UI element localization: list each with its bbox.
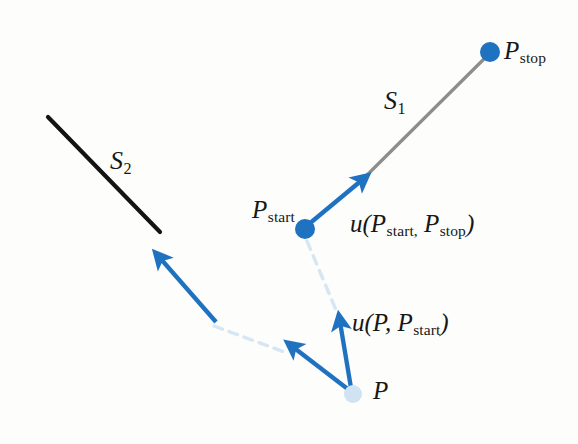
vector-diagram: Pstop S1 S2 Pstart u(Pstart, Pstop) u(P,… — [0, 0, 578, 444]
label-p-stop-base: P — [504, 37, 519, 64]
label-s1-sub: 1 — [397, 100, 406, 117]
arrow-u-p-toward-s2 — [293, 347, 349, 390]
point-p-stop — [480, 42, 500, 62]
label-u1-arg2-base: P — [424, 210, 439, 237]
label-u2-fn: u — [352, 309, 365, 336]
label-p-base: P — [373, 377, 388, 404]
dashed-guide-s2-extension — [214, 326, 287, 353]
segment-s1 — [360, 55, 488, 182]
label-p-stop-sub: stop — [519, 49, 546, 66]
label-s2-sub: 2 — [123, 160, 132, 177]
label-s1: S1 — [384, 88, 406, 117]
label-u-pstart-pstop: u(Pstart, Pstop) — [350, 211, 474, 239]
label-u2-arg2-sub: start — [413, 321, 441, 338]
label-u1-sep: , — [414, 222, 418, 239]
label-u1-arg1-sub: start — [386, 222, 414, 239]
segment-s2 — [48, 117, 160, 232]
label-p-start: Pstart — [252, 197, 295, 225]
label-u1-fn: u — [350, 210, 363, 237]
label-u2-arg2-base: P — [397, 309, 412, 336]
label-u-p-pstart: u(P, Pstart) — [352, 310, 449, 338]
point-p — [344, 385, 362, 403]
label-u1-close: ) — [466, 210, 474, 237]
label-p: P — [373, 378, 388, 403]
label-s2-base: S — [110, 146, 123, 175]
label-p-start-base: P — [252, 196, 267, 223]
label-u1-arg1-base: P — [371, 210, 386, 237]
label-u2-arg1-base: P — [373, 309, 385, 336]
arrow-u-p-pstart — [340, 322, 351, 388]
label-p-start-sub: start — [267, 208, 295, 225]
label-s2: S2 — [110, 148, 132, 177]
label-u1-open: ( — [363, 210, 371, 237]
label-p-stop: Pstop — [504, 38, 546, 66]
label-u2-sep: , — [385, 309, 391, 336]
label-u1-arg2-sub: stop — [439, 222, 466, 239]
label-u2-close: ) — [440, 309, 448, 336]
arrow-u-toward-s2 — [160, 258, 216, 322]
label-s1-base: S — [384, 86, 397, 115]
dashed-guide-pstart-p — [307, 241, 344, 329]
label-u2-open: ( — [365, 309, 373, 336]
point-p-start — [295, 219, 315, 239]
